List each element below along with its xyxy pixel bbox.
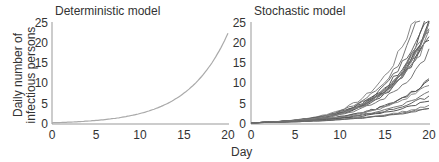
deterministic-curve [52, 33, 228, 123]
deterministic-line [52, 33, 228, 123]
stochastic-lines [251, 21, 429, 123]
stochastic-realization [251, 21, 420, 123]
left-axes [52, 22, 229, 124]
stochastic-realization [251, 80, 429, 123]
stochastic-realization [251, 37, 429, 123]
chart-canvas [0, 0, 439, 162]
stochastic-realization [251, 86, 429, 123]
